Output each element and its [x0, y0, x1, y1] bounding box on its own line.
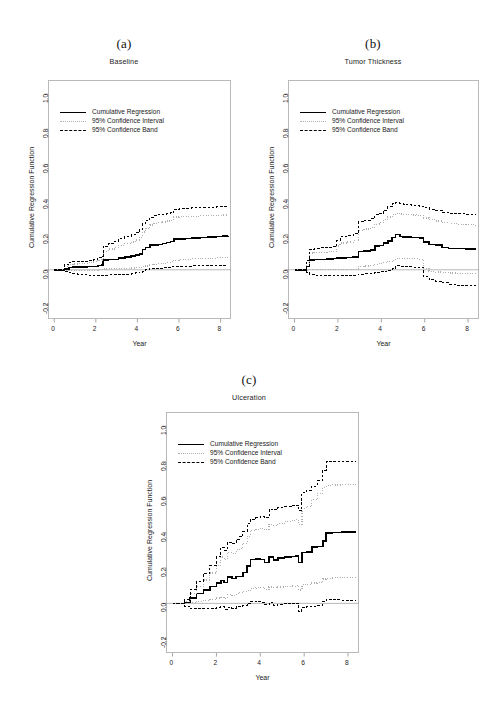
y-tick-label: 0.4	[42, 199, 49, 208]
y-tick-label: -0.2	[42, 303, 49, 314]
legend-key-dashed-icon	[300, 130, 326, 132]
y-tick-label: 0.2	[282, 234, 289, 243]
y-tick-label: -0.2	[282, 303, 289, 314]
y-axis-label-c: Cumulative Regression Function	[146, 479, 153, 580]
legend-label: 95% Confidence Band	[332, 126, 398, 133]
x-tick-label: 8	[345, 659, 349, 666]
legend-label: Cumulative Regression	[92, 108, 160, 115]
y-tick-label: 0.0	[42, 270, 49, 279]
y-tick-label: 0.2	[42, 234, 49, 243]
y-tick-label: 0.0	[160, 603, 167, 612]
y-tick-label: 0.2	[160, 568, 167, 577]
y-tick-label: 1.0	[42, 94, 49, 103]
x-tick-label: 0	[51, 325, 55, 332]
legend-key-solid-icon	[178, 444, 204, 446]
x-tick-label: 2	[93, 325, 97, 332]
plot-curves-c	[118, 372, 380, 704]
y-tick-label: 1.0	[282, 94, 289, 103]
plot-curves-a	[0, 36, 248, 370]
y-tick-label: 1.0	[160, 426, 167, 435]
y-tick-label: 0.8	[282, 129, 289, 138]
legend-key-solid-icon	[60, 112, 86, 114]
x-axis-label-a: Year	[48, 340, 231, 347]
x-tick-label: 2	[213, 659, 217, 666]
legend-key-dashed-icon	[60, 130, 86, 132]
y-axis-label-a: Cumulative Regression Function	[28, 146, 35, 247]
y-axis-label-b: Cumulative Regression Function	[268, 146, 275, 247]
legend-key-solid-icon	[300, 112, 326, 114]
x-tick-label: 0	[170, 659, 174, 666]
x-axis-label-c: Year	[166, 674, 359, 681]
x-tick-label: 2	[335, 325, 339, 332]
x-tick-label: 6	[301, 659, 305, 666]
y-tick-label: -0.2	[160, 636, 167, 647]
legend-label: Cumulative Regression	[210, 440, 278, 447]
panel-c: (c) Ulceration Cumulative Regression Fun…	[118, 372, 380, 704]
figure-container: (a) Baseline Cumulative Regression Funct…	[0, 0, 498, 704]
x-tick-label: 6	[176, 325, 180, 332]
x-tick-label: 4	[378, 325, 382, 332]
legend-key-dotted-icon	[300, 121, 326, 123]
x-axis-label-b: Year	[288, 340, 479, 347]
y-tick-label: 0.0	[282, 270, 289, 279]
legend-key-dotted-icon	[60, 121, 86, 123]
x-tick-label: 4	[257, 659, 261, 666]
x-tick-label: 6	[422, 325, 426, 332]
y-tick-label: 0.8	[42, 129, 49, 138]
x-tick-label: 0	[292, 325, 296, 332]
legend-label: Cumulative Regression	[332, 108, 400, 115]
legend-label: 95% Confidence Interval	[210, 449, 282, 456]
y-tick-label: 0.8	[160, 461, 167, 470]
panel-a: (a) Baseline Cumulative Regression Funct…	[0, 36, 248, 370]
legend-key-dotted-icon	[178, 453, 204, 455]
x-tick-label: 8	[218, 325, 222, 332]
y-tick-label: 0.6	[42, 164, 49, 173]
panel-b: (b) Tumor Thickness Cumulative Regressio…	[248, 36, 498, 370]
legend-label: 95% Confidence Interval	[332, 117, 404, 124]
y-tick-label: 0.6	[160, 497, 167, 506]
y-tick-label: 0.6	[282, 164, 289, 173]
legend-label: 95% Confidence Interval	[92, 117, 164, 124]
x-tick-label: 8	[465, 325, 469, 332]
legend-key-dashed-icon	[178, 462, 204, 464]
y-tick-label: 0.4	[160, 532, 167, 541]
legend-label: 95% Confidence Band	[210, 458, 276, 465]
legend-label: 95% Confidence Band	[92, 126, 158, 133]
x-tick-label: 4	[134, 325, 138, 332]
y-tick-label: 0.4	[282, 199, 289, 208]
